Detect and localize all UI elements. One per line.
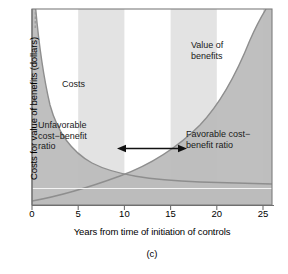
annotation-costs: Costs [62, 79, 85, 90]
x-tick-label-20: 20 [204, 208, 230, 219]
y-axis-title: Costs for value of benefits (dollars) [28, 14, 39, 204]
figure-panel-c: 0 5 10 15 20 25 Costs for value of benef… [0, 0, 288, 274]
x-tick-label-15: 15 [158, 208, 184, 219]
x-tick-label-25: 25 [250, 208, 276, 219]
x-axis-title: Years from time of initiation of control… [32, 226, 272, 237]
x-tick-label-10: 10 [111, 208, 137, 219]
annotation-value-of-benefits: Value of benefits [191, 40, 223, 61]
panel-caption: (c) [32, 248, 272, 259]
annotation-favorable-cost-benefit-ratio: Favorable cost− benefit ratio [186, 129, 250, 150]
annotation-unfavorable-cost-benefit-ratio: Unfavorable cost−benefit ratio [38, 120, 87, 152]
x-tick-label-0: 0 [19, 208, 45, 219]
x-tick-label-5: 5 [65, 208, 91, 219]
